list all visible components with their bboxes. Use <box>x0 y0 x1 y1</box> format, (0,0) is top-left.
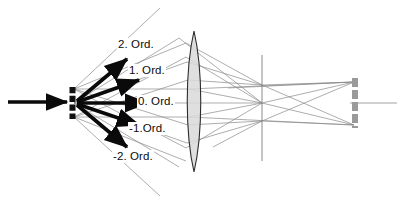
ray-diagram-svg <box>0 0 402 202</box>
label-order-minus-2: -2. Ord. <box>112 150 154 163</box>
biconvex-lens <box>187 31 201 172</box>
crossing-rays <box>189 82 354 147</box>
figure-canvas: 2. Ord. 1. Ord. 0. Ord. -1.Ord. -2. Ord. <box>0 0 402 202</box>
label-order-plus-1: 1. Ord. <box>128 64 166 77</box>
label-order-plus-2: 2. Ord. <box>117 38 155 51</box>
label-order-zero: 0. Ord. <box>137 95 175 108</box>
label-order-minus-1: -1.Ord. <box>128 122 167 135</box>
